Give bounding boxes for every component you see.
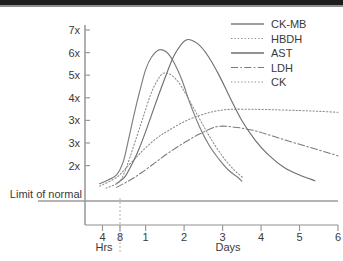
legend-label-ast: AST [271,47,293,59]
x-tick-label-days: 6 [335,231,341,243]
hours-axis-caption: Hrs [95,241,113,253]
cardiac-enzyme-chart: 7x6x5x4x3x3x2x 48123456 Limit of normal … [0,0,343,261]
series-curves [100,39,338,188]
legend-label-ldh: LDH [271,62,293,74]
legend-label-ck-mb: CK-MB [271,18,306,30]
y-tick-label: 2x [68,160,80,172]
chart-figure: 7x6x5x4x3x3x2x 48123456 Limit of normal … [0,0,343,261]
series-curve-hbdh [100,109,338,186]
legend-label-ck: CK [271,76,287,88]
series-curve-ldh [117,126,339,187]
y-axis-ticks [85,30,90,166]
limit-of-normal-label: Limit of normal [10,188,82,200]
series-curve-ck [106,73,244,188]
x-tick-label-days: 4 [258,231,264,243]
chart-legend: CK-MBHBDHASTLDHCK [231,18,306,88]
y-tick-label: 3x [68,137,80,149]
series-curve-ck-mb [100,50,242,184]
y-tick-label: 5x [68,69,80,81]
y-tick-label: 6x [68,47,80,59]
y-tick-label: 4x [68,92,80,104]
x-tick-label-days: 1 [143,231,149,243]
x-tick-label-days: 5 [296,231,302,243]
y-tick-label: 3x [68,114,80,126]
legend-label-hbdh: HBDH [271,33,302,45]
y-axis-tick-labels: 7x6x5x4x3x3x2x [68,24,80,172]
x-tick-label-hours: 8 [117,231,123,243]
days-axis-caption: Days [215,241,241,253]
x-tick-label-days: 2 [181,231,187,243]
y-tick-label: 7x [68,24,80,36]
